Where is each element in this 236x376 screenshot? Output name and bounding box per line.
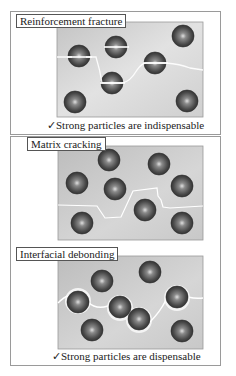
particle <box>176 90 198 112</box>
particle <box>172 25 194 47</box>
particle <box>148 153 170 175</box>
caption-text: Strong particles are indispensable <box>56 119 204 131</box>
panel-title: Interfacial debonding <box>16 247 118 261</box>
particle <box>104 178 126 200</box>
particle <box>64 91 86 113</box>
particle <box>66 172 88 194</box>
particle <box>91 270 113 292</box>
particle <box>166 286 188 308</box>
caption-2: ✓Strong particles are dispensable <box>52 350 201 363</box>
particle <box>171 320 193 342</box>
particle <box>98 149 120 171</box>
caption-text: Strong particles are dispensable <box>61 350 201 362</box>
schematic-drawing <box>0 0 236 376</box>
particle <box>171 212 193 234</box>
check-icon: ✓ <box>52 350 61 362</box>
panel-title: Reinforcement fracture <box>16 14 126 28</box>
particle <box>134 199 156 221</box>
particle <box>128 308 150 330</box>
particle <box>68 45 90 67</box>
particle <box>67 291 89 313</box>
check-icon: ✓ <box>47 119 56 131</box>
particle <box>109 296 131 318</box>
particle <box>81 319 103 341</box>
panel-title: Matrix cracking <box>27 137 106 151</box>
caption-1: ✓Strong particles are indispensable <box>47 119 204 132</box>
particle <box>171 175 193 197</box>
particle <box>71 212 93 234</box>
particle <box>139 261 161 283</box>
